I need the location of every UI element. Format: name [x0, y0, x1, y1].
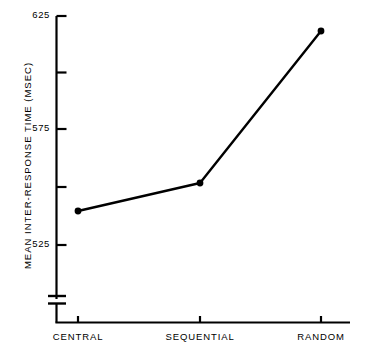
- x-tick-label-random: RANDOM: [271, 331, 366, 342]
- x-tick-label-sequential: SEQUENTIAL: [150, 331, 250, 342]
- line-chart-plot: [0, 0, 366, 351]
- data-point-random: [318, 28, 325, 35]
- x-tick-label-central: CENTRAL: [28, 331, 128, 342]
- y-axis-title: MEAN INTER-RESPONSE TIME (MSEC): [22, 61, 33, 271]
- chart-figure: 625 575 525 MEAN INTER-RESPONSE TIME (MS…: [0, 0, 366, 351]
- data-point-central: [75, 208, 82, 215]
- y-tick-label-625: 625: [16, 9, 50, 20]
- data-point-sequential: [197, 180, 204, 187]
